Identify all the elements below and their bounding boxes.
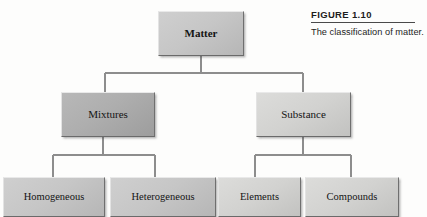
node-compounds[interactable]: Compounds	[305, 177, 399, 217]
node-substance-label: Substance	[281, 108, 326, 120]
node-homogeneous-label: Homogeneous	[24, 191, 85, 202]
node-elements-label: Elements	[240, 191, 279, 202]
node-heterogeneous-label: Heterogeneous	[132, 191, 195, 202]
figure-caption: FIGURE 1.10 The classification of matter…	[311, 9, 427, 38]
node-substance[interactable]: Substance	[256, 92, 351, 137]
node-mixtures[interactable]: Mixtures	[61, 92, 155, 137]
node-matter-label: Matter	[185, 27, 218, 39]
node-heterogeneous[interactable]: Heterogeneous	[110, 177, 216, 217]
node-elements[interactable]: Elements	[218, 177, 301, 217]
node-mixtures-label: Mixtures	[88, 108, 128, 120]
node-matter[interactable]: Matter	[158, 11, 244, 56]
figure-description: The classification of matter.	[311, 27, 427, 38]
node-compounds-label: Compounds	[327, 191, 378, 202]
node-homogeneous[interactable]: Homogeneous	[3, 177, 105, 217]
figure-number: FIGURE 1.10	[311, 9, 415, 23]
